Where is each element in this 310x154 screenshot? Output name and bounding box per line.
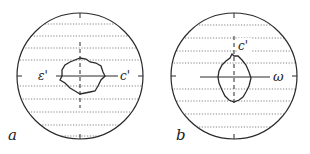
label-c-prime-a: c' [120,69,130,83]
panel-label-a: a [8,126,17,144]
label-c-prime-b: c' [238,39,248,53]
crystal-optics-diagram: ε' c' a c' ω b [0,0,310,154]
panel-a: ε' c' a [8,13,143,144]
label-epsilon-prime: ε' [38,69,48,83]
panel-label-b: b [176,126,186,144]
panel-b: c' ω b [171,13,297,144]
label-omega: ω [273,69,284,84]
